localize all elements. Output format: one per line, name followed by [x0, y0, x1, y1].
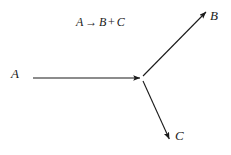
diagram-canvas: A→B+C A B C: [0, 0, 231, 155]
node-label-c: C: [175, 129, 184, 142]
equation-product-1: B: [99, 15, 107, 29]
equation-reactant: A: [76, 15, 84, 29]
node-label-a: A: [11, 67, 19, 80]
equation-product-2: C: [117, 15, 125, 29]
equation-arrow-glyph: →: [84, 15, 99, 29]
arrow-junction-to-b: [143, 12, 206, 76]
equation-plus-glyph: +: [107, 15, 117, 29]
reaction-equation: A→B+C: [76, 16, 125, 28]
node-label-b: B: [210, 9, 218, 22]
arrow-junction-to-c: [143, 81, 169, 139]
